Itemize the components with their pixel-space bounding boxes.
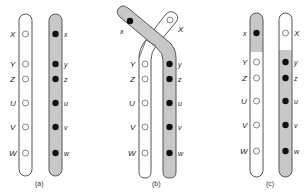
panel-c: x Y Z U V W X y z u v w (c): [240, 13, 300, 188]
svg-text:v: v: [178, 124, 182, 131]
panel-a: X Y Z U V W x y z u v w (a): [9, 14, 70, 188]
caption-a: (a): [35, 180, 44, 188]
svg-text:z: z: [177, 76, 182, 83]
svg-text:y: y: [63, 61, 68, 69]
labels-a-left: X Y Z U V W: [9, 30, 18, 158]
svg-text:v: v: [64, 124, 68, 131]
svg-text:u: u: [294, 98, 298, 105]
svg-text:u: u: [178, 100, 182, 107]
svg-text:W: W: [240, 147, 249, 156]
labels-b-right: y z u v w: [177, 61, 184, 157]
svg-text:w: w: [64, 150, 70, 157]
svg-text:y: y: [177, 61, 182, 69]
svg-text:v: v: [294, 122, 298, 129]
svg-text:Z: Z: [129, 75, 136, 84]
svg-text:Z: Z: [241, 74, 248, 83]
crossing-over-diagram: X Y Z U V W x y z u v w (a): [0, 0, 307, 192]
svg-text:U: U: [10, 99, 16, 108]
svg-text:V: V: [10, 123, 16, 132]
svg-text:U: U: [241, 97, 247, 106]
svg-text:z: z: [63, 76, 68, 83]
svg-text:V: V: [242, 121, 248, 130]
svg-text:W: W: [128, 149, 137, 158]
svg-text:w: w: [294, 148, 300, 155]
labels-a-right: x y z u v w: [63, 31, 70, 157]
svg-text:z: z: [293, 75, 298, 82]
svg-text:U: U: [129, 99, 135, 108]
svg-text:Z: Z: [9, 75, 16, 84]
panel-b: x X Y Z U V W y z u v w (b): [117, 6, 184, 188]
svg-text:Y: Y: [10, 60, 16, 69]
caption-b: (b): [152, 180, 161, 188]
labels-b-left: Y Z U V W: [128, 60, 137, 158]
svg-text:V: V: [130, 123, 136, 132]
svg-text:x: x: [63, 31, 68, 38]
labels-c-left: x Y Z U V W: [240, 30, 249, 156]
svg-text:X: X: [9, 30, 16, 39]
svg-text:X: X: [293, 29, 300, 38]
svg-text:x: x: [242, 30, 247, 37]
svg-text:Y: Y: [242, 58, 248, 67]
svg-text:x: x: [119, 28, 124, 35]
svg-text:y: y: [293, 59, 298, 67]
svg-text:W: W: [9, 149, 18, 158]
svg-text:X: X: [177, 25, 184, 34]
labels-c-right: X y z u v w: [293, 29, 300, 155]
svg-text:Y: Y: [130, 60, 136, 69]
caption-c: (c): [266, 180, 274, 188]
svg-text:u: u: [64, 100, 68, 107]
svg-text:w: w: [178, 150, 184, 157]
